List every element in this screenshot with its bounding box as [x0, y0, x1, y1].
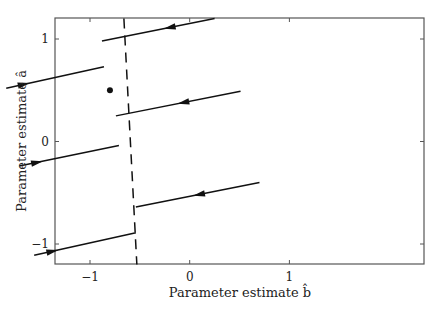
y-axis-label: Parameter estimate â [14, 70, 29, 212]
trajectory-right-1 [102, 19, 215, 42]
x-tick-labels: −2−101 [0, 270, 293, 284]
y-tick-labels: −101 [31, 32, 49, 251]
direction-arrow-icon [177, 98, 190, 107]
axes-box [55, 18, 424, 264]
direction-arrow-icon [192, 190, 205, 199]
x-tick-label: −1 [81, 270, 99, 284]
trajectory-line [102, 19, 215, 42]
x-axis-label: Parameter estimate b̂ [169, 283, 311, 300]
direction-arrow-icon [163, 23, 176, 32]
phase-plane-figure: −2−101 −101 Parameter estimate b̂ Parame… [0, 0, 442, 309]
axis-ticks [0, 18, 424, 264]
switching-line-dashed [124, 19, 137, 265]
equilibrium-point [107, 87, 113, 93]
x-tick-label: 1 [286, 270, 294, 284]
y-tick-label: −1 [31, 237, 49, 251]
trajectory-right-3 [136, 183, 260, 208]
x-tick-label: 0 [186, 270, 194, 284]
direction-arrow-icon [31, 158, 44, 167]
trajectory-left-3 [34, 233, 136, 256]
trajectory-right-2 [116, 91, 241, 116]
axes-frame [55, 18, 424, 264]
trajectory-left-2 [19, 146, 119, 167]
y-tick-label: 0 [41, 135, 49, 149]
y-tick-label: 1 [41, 32, 49, 46]
